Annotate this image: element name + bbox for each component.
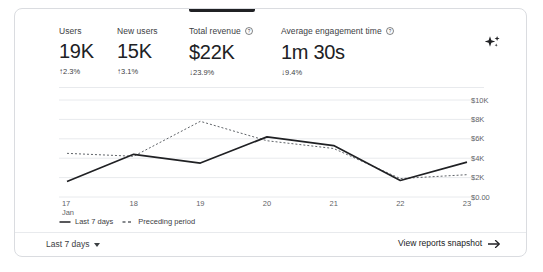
chart-y-tick-label: $4K (471, 154, 484, 163)
svg-text:?: ? (389, 29, 392, 34)
help-circle-icon[interactable]: ? (245, 27, 253, 38)
metric-label-new-users-text: New users (117, 26, 158, 36)
legend-label-last-7-days: Last 7 days (75, 217, 113, 227)
date-range-label: Last 7 days (46, 239, 89, 250)
chart-x-tick-label: 17Jan (62, 199, 74, 217)
metric-label-users: Users (59, 26, 94, 37)
metric-value-new-users: 15K (117, 39, 158, 64)
chart-x-tick-label: 23 (463, 199, 471, 208)
chart-x-tick-label: 18 (129, 199, 137, 208)
chart-x-tick-label: 20 (263, 199, 271, 208)
active-tab-indicator (189, 9, 255, 12)
metric-delta-new-users: ↑3.1% (117, 67, 158, 77)
chevron-down-icon (94, 243, 100, 247)
chart-x-tick-sublabel: Jan (62, 208, 74, 217)
metric-delta-users: ↑2.3% (59, 67, 94, 77)
help-circle-icon[interactable]: ? (386, 27, 394, 38)
chart-y-tick-label: $2K (471, 173, 484, 182)
chart-legend: Last 7 days Preceding period (59, 217, 195, 227)
sparkle-icon (482, 33, 504, 55)
card-footer: Last 7 days View reports snapshot (15, 233, 527, 257)
metric-tab-new-users[interactable]: New users 15K ↑3.1% (117, 9, 158, 85)
header-divider (59, 87, 484, 88)
legend-dashed-line-icon (122, 219, 134, 225)
view-reports-snapshot-link[interactable]: View reports snapshot (398, 238, 501, 249)
metric-label-total-revenue-text: Total revenue (189, 26, 241, 36)
legend-item-last-7-days[interactable]: Last 7 days (59, 217, 113, 227)
chart-gridlines (59, 100, 475, 197)
date-range-selector[interactable]: Last 7 days (46, 239, 100, 250)
metric-label-average-engagement-time-text: Average engagement time (281, 26, 382, 36)
chart-svg (15, 89, 527, 209)
chart-y-tick-label: $10K (471, 96, 489, 105)
metric-delta-total-revenue: ↓23.9% (189, 68, 253, 78)
chart-x-tick-label: 21 (329, 199, 337, 208)
legend-item-preceding-period[interactable]: Preceding period (122, 217, 195, 227)
legend-solid-line-icon (59, 219, 71, 225)
chart-y-axis-labels: $10K$8K$6K$4K$2K$0.00 (467, 89, 525, 209)
chart-x-tick-label: 22 (396, 199, 404, 208)
series-line-preceding-period (67, 121, 467, 178)
metric-label-users-text: Users (59, 26, 81, 36)
metric-label-average-engagement-time: Average engagement time ? (281, 26, 394, 38)
revenue-line-chart: $10K$8K$6K$4K$2K$0.00 (15, 89, 527, 209)
metric-value-average-engagement-time: 1m 30s (281, 40, 394, 65)
metric-tab-total-revenue[interactable]: Total revenue ? $22K ↓23.9% (189, 9, 253, 85)
metric-delta-average-engagement-time: ↓9.4% (281, 68, 394, 78)
sparkle-insights-button[interactable] (482, 33, 504, 55)
chart-y-tick-label: $6K (471, 134, 484, 143)
metric-tab-average-engagement-time[interactable]: Average engagement time ? 1m 30s ↓9.4% (281, 9, 394, 85)
chart-y-tick-label: $8K (471, 115, 484, 124)
view-reports-snapshot-label: View reports snapshot (398, 238, 482, 249)
arrow-right-icon (488, 239, 501, 249)
metrics-row: Users 19K ↑2.3% New users 15K ↑3.1% Tota… (15, 9, 526, 85)
metric-delta-new-users-text: 3.1% (121, 67, 138, 76)
metric-delta-average-engagement-time-text: 9.4% (285, 68, 302, 77)
metric-delta-total-revenue-text: 23.9% (193, 68, 214, 77)
metric-value-total-revenue: $22K (189, 40, 253, 65)
svg-text:?: ? (248, 29, 251, 34)
metric-value-users: 19K (59, 39, 94, 64)
legend-label-preceding-period: Preceding period (138, 217, 195, 227)
metric-delta-users-text: 2.3% (63, 67, 80, 76)
chart-x-tick-label: 19 (196, 199, 204, 208)
metric-tab-users[interactable]: Users 19K ↑2.3% (59, 9, 94, 85)
revenue-overview-card: Users 19K ↑2.3% New users 15K ↑3.1% Tota… (14, 8, 527, 257)
series-line-last-7-days (67, 137, 467, 182)
metric-label-new-users: New users (117, 26, 158, 37)
metric-label-total-revenue: Total revenue ? (189, 26, 253, 38)
